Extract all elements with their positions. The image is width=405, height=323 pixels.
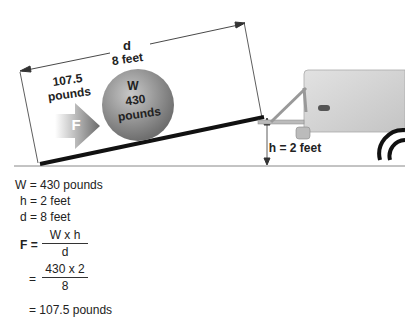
given-distance: d = 8 feet xyxy=(20,210,70,224)
subst-bar xyxy=(42,277,88,278)
given-height: h = 2 feet xyxy=(20,194,70,208)
formula-bar xyxy=(42,243,88,244)
formula-numerator: W x h xyxy=(42,228,88,242)
height-label: h = 2 feet xyxy=(269,141,321,155)
formula-denominator: d xyxy=(42,245,88,259)
given-weight: W = 430 pounds xyxy=(15,178,103,192)
result: = 107.5 pounds xyxy=(29,303,112,317)
subst-denominator: 8 xyxy=(42,279,88,293)
force-symbol: F xyxy=(71,116,80,133)
distance-value: 8 feet xyxy=(111,50,144,68)
formula-lhs: F = xyxy=(20,238,38,252)
subst-eq: = xyxy=(29,272,36,286)
weight-symbol: W xyxy=(127,79,139,93)
subst-numerator: 430 x 2 xyxy=(42,262,88,276)
